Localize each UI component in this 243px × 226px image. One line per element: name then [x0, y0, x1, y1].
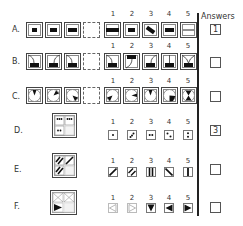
option-number-5: 5 — [181, 157, 195, 165]
sequence-cell-b2 — [45, 53, 62, 70]
option-c4[interactable] — [161, 87, 178, 104]
answer-box-c[interactable] — [210, 91, 221, 102]
option-number-5: 5 — [181, 194, 195, 202]
option-number-1: 1 — [106, 194, 120, 202]
option-b4[interactable] — [161, 53, 178, 70]
option-number-3: 3 — [144, 118, 158, 126]
option-number-5: 5 — [181, 118, 195, 126]
answer-box-f[interactable] — [210, 202, 221, 213]
option-number-2: 2 — [125, 10, 139, 18]
option-e2[interactable] — [127, 167, 137, 177]
option-number-2: 2 — [125, 118, 139, 126]
option-number-3: 3 — [144, 42, 158, 50]
option-c1[interactable] — [104, 87, 121, 104]
option-a5[interactable] — [180, 22, 197, 38]
answer-box-b[interactable] — [210, 57, 221, 68]
option-number-5: 5 — [181, 77, 195, 85]
option-number-1: 1 — [106, 157, 120, 165]
sequence-cell-b3 — [64, 53, 81, 70]
matrix-e — [52, 153, 77, 178]
option-number-4: 4 — [162, 10, 176, 18]
answers-divider — [197, 13, 199, 216]
option-f3[interactable] — [146, 203, 156, 213]
option-c5[interactable] — [180, 87, 197, 104]
option-b2[interactable] — [123, 53, 140, 70]
sequence-cell-c1 — [26, 87, 43, 104]
option-a2[interactable] — [123, 22, 140, 38]
option-a4[interactable] — [161, 22, 178, 38]
blank-cell-a — [83, 22, 100, 38]
option-e5[interactable] — [183, 167, 193, 177]
option-d4[interactable] — [164, 130, 174, 140]
option-number-4: 4 — [162, 77, 176, 85]
option-a1[interactable] — [104, 22, 121, 38]
option-number-4: 4 — [162, 118, 176, 126]
option-d2[interactable] — [127, 130, 137, 140]
option-number-5: 5 — [181, 10, 195, 18]
option-number-1: 1 — [106, 42, 120, 50]
option-number-3: 3 — [144, 157, 158, 165]
option-f4[interactable] — [164, 203, 174, 213]
option-d5[interactable] — [183, 130, 193, 140]
sequence-cell-c2 — [45, 87, 62, 104]
answer-box-a[interactable]: 1 — [210, 24, 221, 35]
matrix-f — [50, 190, 77, 215]
option-number-2: 2 — [125, 42, 139, 50]
option-b1[interactable] — [104, 53, 121, 70]
option-f5[interactable] — [183, 203, 193, 213]
option-number-3: 3 — [144, 194, 158, 202]
row-label-f: F. — [14, 202, 20, 211]
row-label-c: C. — [12, 92, 20, 101]
option-e4[interactable] — [164, 167, 174, 177]
option-number-4: 4 — [162, 42, 176, 50]
matrix-d — [52, 113, 77, 138]
option-number-1: 1 — [106, 118, 120, 126]
option-number-2: 2 — [125, 77, 139, 85]
option-f1[interactable] — [108, 203, 118, 213]
option-number-1: 1 — [106, 10, 120, 18]
row-label-d: D. — [14, 126, 23, 135]
answer-box-d[interactable]: 3 — [210, 125, 221, 136]
row-label-e: E. — [14, 165, 22, 174]
sequence-cell-a3 — [64, 22, 81, 38]
blank-cell-b — [83, 53, 100, 70]
option-number-2: 2 — [125, 194, 139, 202]
sequence-cell-a1 — [26, 22, 43, 38]
option-number-2: 2 — [125, 157, 139, 165]
option-c2[interactable] — [123, 87, 140, 104]
option-number-3: 3 — [144, 77, 158, 85]
option-a3[interactable] — [142, 22, 159, 38]
option-d3[interactable] — [146, 130, 156, 140]
option-d1[interactable] — [108, 130, 118, 140]
row-label-a: A. — [12, 25, 20, 34]
answers-header: Answers — [201, 12, 235, 21]
sequence-cell-b1 — [26, 53, 43, 70]
option-number-4: 4 — [162, 157, 176, 165]
option-e3[interactable] — [146, 167, 156, 177]
option-b3[interactable] — [142, 53, 159, 70]
answer-box-e[interactable] — [210, 164, 221, 175]
option-number-5: 5 — [181, 42, 195, 50]
option-number-4: 4 — [162, 194, 176, 202]
option-b5[interactable] — [180, 53, 197, 70]
blank-cell-c — [83, 87, 100, 104]
sequence-cell-a2 — [45, 22, 62, 38]
option-number-3: 3 — [144, 10, 158, 18]
row-label-b: B. — [12, 57, 20, 66]
option-number-1: 1 — [106, 77, 120, 85]
option-c3[interactable] — [142, 87, 159, 104]
option-f2[interactable] — [127, 203, 137, 213]
sequence-cell-c3 — [64, 87, 81, 104]
option-e1[interactable] — [108, 167, 118, 177]
